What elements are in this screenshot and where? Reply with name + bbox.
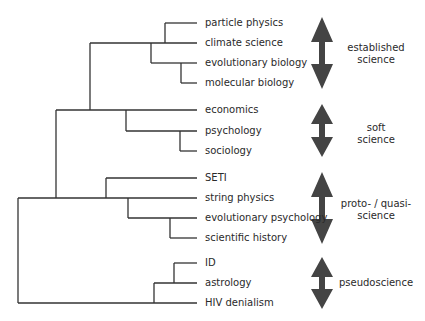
category-label-line1: soft — [336, 122, 416, 134]
leaf-label: scientific history — [205, 232, 287, 244]
category-label-line1: proto- / quasi- — [336, 198, 416, 210]
category-established-science: established science — [336, 42, 416, 66]
leaf-label: sociology — [205, 145, 252, 157]
leaf-label: string physics — [205, 192, 274, 204]
leaf-label: climate science — [205, 37, 283, 49]
leaf-label: evolutionary biology — [205, 57, 307, 69]
leaf-label: ID — [205, 257, 216, 269]
double-arrow-icon — [311, 17, 333, 89]
category-label-line1: established — [336, 42, 416, 54]
category-label-line2: science — [336, 134, 416, 146]
category-proto-quasi-science: proto- / quasi- science — [336, 198, 416, 222]
leaf-label: SETI — [205, 172, 227, 184]
category-pseudoscience: pseudoscience — [336, 277, 416, 289]
category-label-line2: science — [336, 210, 416, 222]
leaf-label: astrology — [205, 277, 251, 289]
category-label-line2: science — [336, 54, 416, 66]
leaf-label: HIV denialism — [205, 297, 274, 309]
category-soft-science: soft science — [336, 122, 416, 146]
double-arrow-icon — [311, 172, 333, 244]
leaf-label: psychology — [205, 125, 262, 137]
double-arrow-icon — [311, 104, 333, 157]
double-arrows — [311, 17, 333, 309]
category-label-line1: pseudoscience — [336, 277, 416, 289]
leaf-label: economics — [205, 104, 258, 116]
leaf-label: evolutionary psychology — [205, 212, 327, 224]
leaf-label: particle physics — [205, 17, 283, 29]
leaf-label: molecular biology — [205, 77, 294, 89]
double-arrow-icon — [311, 257, 333, 309]
